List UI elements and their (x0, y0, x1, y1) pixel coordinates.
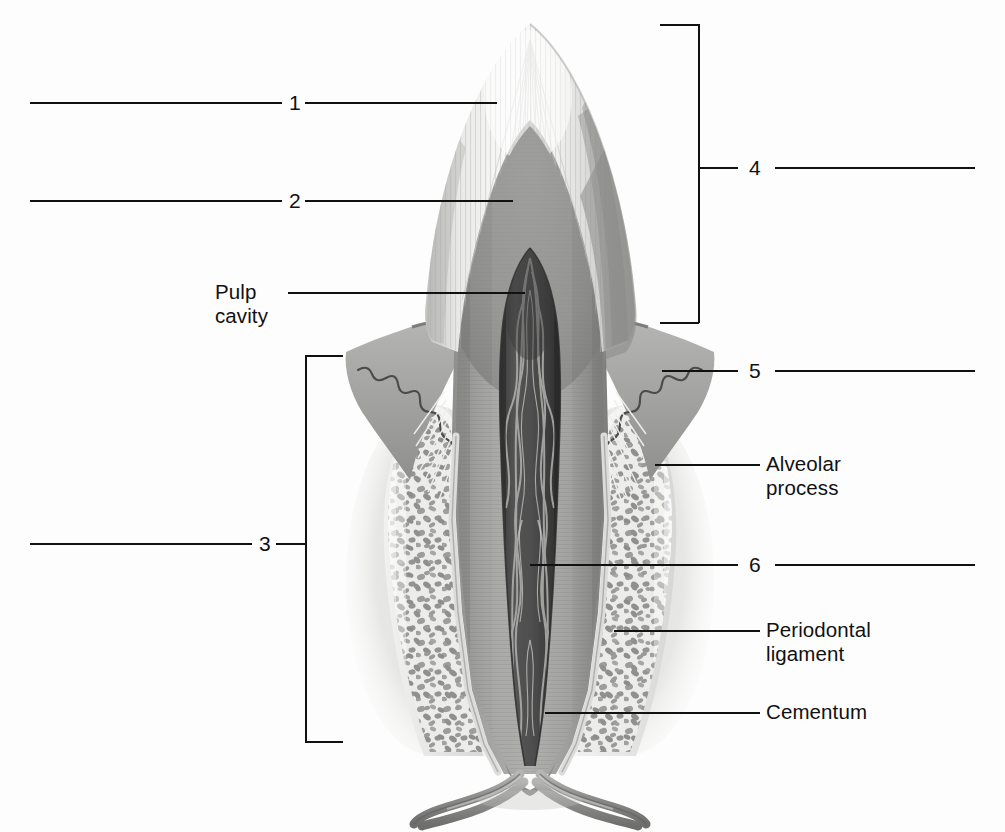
callout-label-4[interactable]: 4 (746, 157, 764, 178)
bracket-4-spine (698, 24, 700, 323)
callout-label-1[interactable]: 1 (286, 92, 304, 113)
leader-6-outer (775, 564, 975, 566)
callout-label-2[interactable]: 2 (286, 190, 304, 211)
leader-3-outer (30, 543, 252, 545)
leader-2-outer (30, 200, 282, 202)
callout-label-5[interactable]: 5 (746, 360, 764, 381)
leader-4-stub (698, 167, 738, 169)
callout-label-cementum[interactable]: Cementum (766, 700, 936, 724)
bracket-3-bottom-arm (305, 741, 343, 743)
leader-5-inner (662, 370, 738, 372)
bracket-4-bottom-arm (660, 322, 699, 324)
leader-5-outer (775, 370, 975, 372)
leader-alveolar-process (655, 464, 760, 466)
leader-6-inner (530, 564, 738, 566)
callout-label-alveolar-process[interactable]: Alveolar process (766, 452, 946, 500)
leader-periodontal-ligament (614, 630, 760, 632)
bracket-3-top-arm (305, 355, 343, 357)
callout-label-periodontal-ligament[interactable]: Periodontal ligament (766, 618, 956, 666)
leader-2-inner (305, 200, 513, 202)
bracket-4-top-arm (660, 24, 699, 26)
leader-1-inner (305, 102, 497, 104)
leader-pulp-cavity (288, 292, 525, 294)
leader-4-outer (775, 167, 975, 169)
callout-label-pulp-cavity[interactable]: Pulp cavity (215, 280, 287, 328)
callout-label-6[interactable]: 6 (746, 554, 764, 575)
callout-label-3[interactable]: 3 (256, 533, 274, 554)
bracket-3-spine (305, 355, 307, 743)
figure-canvas: 1 2 3 4 5 6 Pulp cavity Alveolar process… (0, 0, 1005, 832)
leader-3-stub (276, 543, 306, 545)
leader-cementum (545, 712, 760, 714)
leader-1-outer (30, 102, 282, 104)
